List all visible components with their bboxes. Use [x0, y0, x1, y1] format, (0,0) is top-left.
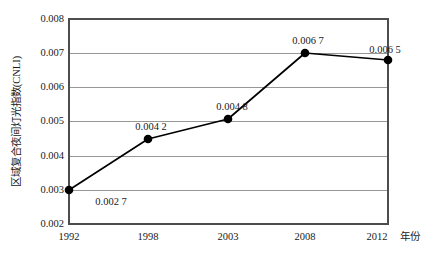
plot-area — [0, 0, 436, 261]
data-point-marker — [144, 135, 153, 144]
data-point-marker — [384, 56, 393, 65]
x-tick-label: 1998 — [118, 230, 178, 244]
data-point-label: 0.004 8 — [197, 101, 267, 113]
data-point-label: 0.002 7 — [76, 196, 146, 208]
data-point-label: 0.006 5 — [350, 44, 420, 56]
x-axis-tick-labels: 1992 1998 2003 2008 2012 — [0, 230, 436, 246]
data-point-marker — [301, 49, 310, 58]
x-tick-label: 2012 — [347, 230, 407, 244]
x-axis-unit-label: 年份 — [400, 230, 420, 244]
data-point-label: 0.004 2 — [116, 121, 186, 133]
line-chart: 区域复合夜间灯光指数(CNLI) 0.008 0.007 0.006 0.005… — [0, 0, 436, 261]
x-tick-label: 2008 — [275, 230, 335, 244]
data-point-marker — [65, 186, 74, 195]
x-tick-label: 2003 — [198, 230, 258, 244]
x-tick-label: 1992 — [39, 230, 99, 244]
data-markers — [65, 49, 393, 195]
data-point-marker — [224, 115, 233, 124]
data-point-label: 0.006 7 — [273, 35, 343, 47]
